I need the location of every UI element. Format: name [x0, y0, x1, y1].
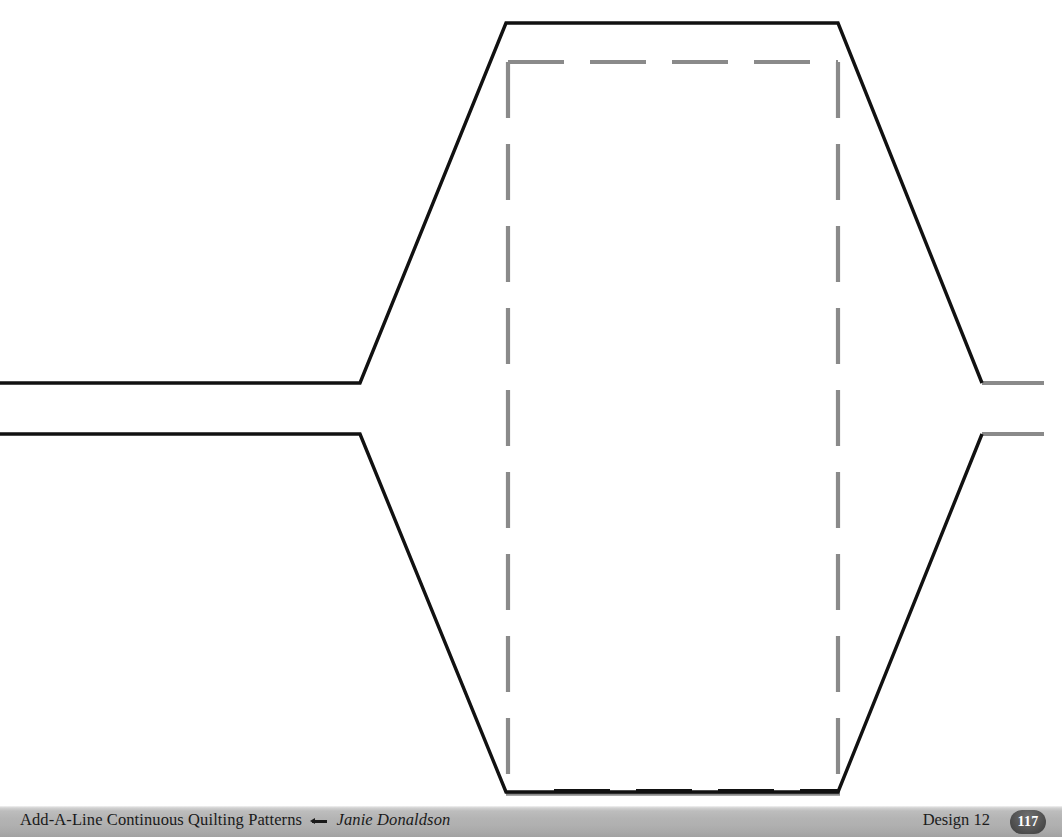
footer-author-name: Janie Donaldson — [337, 810, 451, 829]
drawing-background — [0, 0, 1062, 806]
footer-book-title: Add-A-Line Continuous Quilting Patterns — [20, 810, 302, 829]
page-number-badge: 117 — [1010, 810, 1046, 834]
pattern-page: Add-A-Line Continuous Quilting Patterns … — [0, 0, 1062, 837]
arrow-left-dash-icon — [310, 816, 327, 826]
page-footer-content: Add-A-Line Continuous Quilting Patterns … — [0, 806, 1062, 837]
footer-design-label: Design 12 — [923, 810, 990, 830]
footer-book-credit: Add-A-Line Continuous Quilting Patterns … — [20, 810, 450, 830]
page-footer-bar: Add-A-Line Continuous Quilting Patterns … — [0, 806, 1062, 837]
quilting-pattern-drawing — [0, 0, 1062, 806]
